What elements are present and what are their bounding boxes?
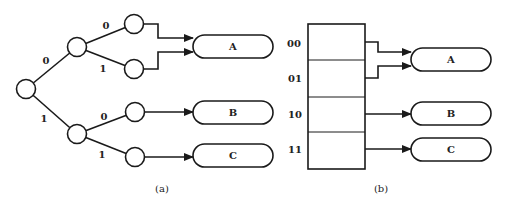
- edge-label: 0: [101, 111, 108, 122]
- tree-node-11: [126, 148, 145, 167]
- row-index: 10: [288, 109, 302, 120]
- tree-node-1: [68, 125, 87, 144]
- caption-b: (b): [374, 183, 388, 194]
- tree-node-01: [125, 60, 144, 79]
- target-label: B: [447, 108, 455, 119]
- target-box-A: A: [411, 48, 491, 71]
- arrow-00-to-A: [144, 24, 193, 38]
- target-box-B: B: [193, 101, 273, 124]
- panel-a-tree: 0 1 0 1 0 1 A B C (a): [17, 15, 274, 195]
- target-label: C: [447, 144, 455, 155]
- target-box-A: A: [193, 35, 273, 58]
- arrow-row00-to-A: [365, 42, 411, 52]
- tree-node-10: [126, 103, 145, 122]
- target-label: A: [228, 41, 237, 52]
- edge-label: 1: [41, 113, 48, 124]
- arrow-row01-to-A: [365, 66, 411, 78]
- row-index: 01: [288, 73, 302, 84]
- tree-node-00: [125, 15, 144, 34]
- target-box-C: C: [193, 144, 273, 167]
- tree-node-0: [68, 38, 87, 57]
- target-box-C: C: [411, 138, 491, 161]
- target-box-B: B: [411, 102, 491, 125]
- edge-label: 0: [43, 55, 50, 66]
- target-label: B: [229, 107, 237, 118]
- edge-label: 1: [100, 63, 107, 74]
- edge-label: 1: [99, 149, 106, 160]
- target-label: A: [446, 54, 455, 65]
- diagram-canvas: 0 1 0 1 0 1 A B C (a) 00 01 10: [0, 0, 506, 202]
- row-index: 00: [287, 38, 301, 49]
- edge-label: 0: [103, 20, 110, 31]
- panel-b-table: 00 01 10 11 A B C (b): [287, 24, 491, 194]
- tree-node-root: [17, 80, 36, 99]
- caption-a: (a): [155, 183, 169, 194]
- row-index: 11: [288, 144, 302, 155]
- target-label: C: [229, 150, 237, 161]
- arrow-01-to-A: [144, 52, 193, 69]
